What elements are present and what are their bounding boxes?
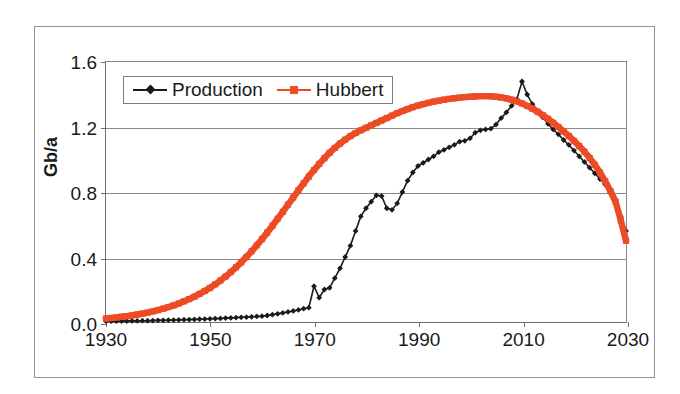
series-production [103,79,629,324]
x-tick-mark [210,322,211,327]
x-tick-mark [315,322,316,327]
chart-figure: Gb/a 0.00.40.81.21.6 1930195019701990201… [34,26,655,378]
y-tick-label: 1.6 [71,53,97,72]
y-tick-label: 0.8 [71,184,97,203]
hubbert-line-marker-icon [277,83,311,97]
y-tick-label: 1.2 [71,118,97,137]
x-tick-label: 1990 [398,330,440,349]
x-tick-mark [628,322,629,327]
legend-label-production: Production [172,80,263,99]
chart-legend: Production Hubbert [123,76,393,104]
x-tick-label: 1950 [189,330,231,349]
x-tick-label: 2030 [607,330,649,349]
legend-label-hubbert: Hubbert [316,80,384,99]
x-tick-mark [524,322,525,327]
x-tick-label: 1970 [294,330,336,349]
legend-item-production: Production [133,80,263,99]
y-tick-label: 0.4 [71,249,97,268]
production-line-marker-icon [133,83,167,97]
x-tick-mark [419,322,420,327]
legend-item-hubbert: Hubbert [277,80,384,99]
y-axis-title: Gb/a [41,137,62,177]
x-tick-label: 2010 [502,330,544,349]
x-tick-label: 1930 [85,330,127,349]
